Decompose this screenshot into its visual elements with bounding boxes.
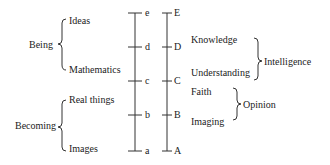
intelligence-label: Intelligence [264,56,311,67]
point-E: E [174,7,180,18]
point-a: a [145,145,149,156]
being-brace [58,19,66,70]
divided-line-diagram [0,0,330,165]
opinion-brace [233,88,241,120]
point-e: e [145,7,149,18]
knowledge-label: Knowledge [191,34,237,45]
point-C: C [174,75,181,86]
becoming-label: Becoming [15,120,56,131]
point-A: A [174,145,181,156]
imaging-label: Imaging [191,116,224,127]
point-B: B [174,109,181,120]
mathematics-label: Mathematics [69,64,121,75]
being-label: Being [29,39,53,50]
images-label: Images [69,143,98,154]
point-D: D [174,41,181,52]
point-d: d [145,41,150,52]
becoming-brace [58,100,66,151]
ideas-label: Ideas [69,15,90,26]
intelligence-brace [254,38,262,80]
faith-label: Faith [191,86,212,97]
real-things-label: Real things [69,94,114,105]
point-b: b [145,109,150,120]
point-c: c [145,75,149,86]
understanding-label: Understanding [191,67,250,78]
opinion-label: Opinion [243,99,276,110]
